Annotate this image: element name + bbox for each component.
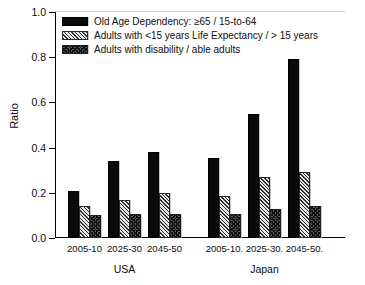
bar-old-age-dependency — [288, 59, 299, 238]
bar-life-expectancy — [259, 177, 270, 238]
legend-swatch-check-icon — [62, 45, 88, 54]
bar-life-expectancy — [159, 193, 170, 238]
bar-life-expectancy — [119, 200, 130, 238]
y-axis-title: Ratio — [8, 86, 20, 146]
legend-item-life-expectancy: Adults with <15 years Life Expectancy / … — [62, 29, 318, 42]
legend-item-old-age-dependency: Old Age Dependency: ≥65 / 15-to-64 — [62, 15, 318, 28]
y-tick-mark — [49, 238, 55, 239]
x-group-label: Japan — [225, 263, 305, 275]
legend-item-disability: Adults with disability / able adults — [62, 43, 318, 56]
x-group-label: USA — [85, 263, 165, 275]
bar-life-expectancy — [79, 206, 90, 238]
bar-disability — [310, 206, 321, 238]
y-tick-label: 0.4 — [12, 142, 46, 154]
bar-old-age-dependency — [248, 114, 259, 238]
legend: Old Age Dependency: ≥65 / 15-to-64 Adult… — [62, 15, 318, 57]
y-tick-label: 0.8 — [12, 51, 46, 63]
y-tick-label: 0.0 — [12, 232, 46, 244]
bar-life-expectancy — [299, 172, 310, 238]
bar-old-age-dependency — [208, 158, 219, 238]
bar-disability — [130, 214, 141, 238]
bar-disability — [170, 214, 181, 238]
bar-chart: Ratio 0.00.20.40.60.81.0 2005-102025-302… — [0, 0, 365, 285]
bar-old-age-dependency — [148, 152, 159, 238]
y-tick-label: 1.0 — [12, 6, 46, 18]
y-tick-label: 0.2 — [12, 187, 46, 199]
bar-old-age-dependency — [108, 161, 119, 238]
bar-disability — [270, 209, 281, 238]
x-tick-label: 2045-50. — [274, 243, 336, 254]
legend-label: Adults with disability / able adults — [94, 44, 240, 55]
legend-swatch-solid-icon — [62, 17, 88, 26]
bar-disability — [230, 214, 241, 238]
bar-life-expectancy — [219, 196, 230, 238]
legend-label: Adults with <15 years Life Expectancy / … — [94, 30, 318, 41]
bar-disability — [90, 215, 101, 238]
y-tick-label: 0.6 — [12, 96, 46, 108]
legend-swatch-hatch-icon — [62, 31, 88, 40]
legend-label: Old Age Dependency: ≥65 / 15-to-64 — [94, 16, 256, 27]
bar-old-age-dependency — [68, 191, 79, 238]
x-tick-label: 2045-50 — [134, 243, 196, 254]
